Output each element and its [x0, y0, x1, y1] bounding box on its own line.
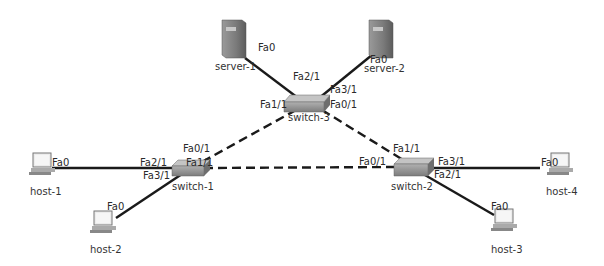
port-label: Fa1/1 — [186, 157, 213, 168]
topology-canvas — [0, 0, 604, 266]
switch-2-icon[interactable] — [394, 158, 434, 176]
port-label: Fa0 — [107, 201, 124, 212]
port-label: Fa0 — [491, 201, 508, 212]
device-name-switch-1: switch-1 — [172, 181, 214, 192]
port-label: Fa2/1 — [434, 169, 461, 180]
device-name-host-3: host-3 — [491, 244, 523, 255]
port-label: Fa0/1 — [359, 156, 386, 167]
port-label: Fa3/1 — [143, 170, 170, 181]
server-2-icon[interactable] — [369, 20, 393, 58]
device-name-host-2: host-2 — [90, 244, 122, 255]
port-label: Fa1/1 — [260, 99, 287, 110]
device-name-server-1: server-1 — [215, 61, 256, 72]
host-3-icon[interactable] — [491, 209, 517, 231]
device-name-switch-3: switch-3 — [288, 112, 330, 123]
port-label: Fa2/1 — [140, 157, 167, 168]
link-switch1-switch2 — [204, 167, 398, 168]
port-label: Fa0/1 — [330, 99, 357, 110]
device-name-host-1: host-1 — [30, 186, 62, 197]
port-label: Fa1/1 — [393, 143, 420, 154]
server-1-icon[interactable] — [222, 20, 246, 58]
port-label: Fa3/1 — [438, 156, 465, 167]
port-label: Fa0 — [541, 157, 558, 168]
device-name-server-2: server-2 — [364, 63, 405, 74]
port-label: Fa0 — [258, 42, 275, 53]
port-label: Fa2/1 — [293, 71, 320, 82]
switch-3-icon[interactable] — [284, 95, 330, 112]
port-label: Fa0/1 — [183, 143, 210, 154]
link-switch3-switch1 — [200, 110, 296, 163]
port-label: Fa3/1 — [330, 84, 357, 95]
port-label: Fa0 — [52, 157, 69, 168]
device-name-host-4: host-4 — [546, 186, 578, 197]
device-name-switch-2: switch-2 — [391, 181, 433, 192]
host-2-icon[interactable] — [90, 211, 116, 233]
